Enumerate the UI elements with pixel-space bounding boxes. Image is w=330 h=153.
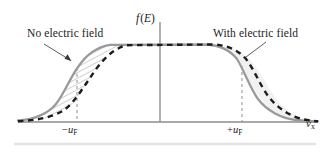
x-axis-label: vx <box>306 117 315 131</box>
tick-right-subscript: F <box>238 128 242 137</box>
y-axis-argument-symbol: E <box>144 12 151 24</box>
leader-arrow-no-field <box>65 54 72 61</box>
fermi-distribution-figure: No electric field With electric field f … <box>0 0 330 153</box>
tick-label-minus-uf: −uF <box>62 124 77 137</box>
annotation-with-electric-field: With electric field <box>213 27 298 39</box>
right-shaded-region <box>200 44 318 121</box>
x-axis-subscript: x <box>311 122 315 131</box>
y-axis-label: f (E) <box>136 12 155 24</box>
tick-label-plus-uf: +uF <box>227 124 242 137</box>
leader-line-with-field <box>246 42 266 57</box>
y-axis-paren-close: ) <box>151 12 155 24</box>
tick-left-subscript: F <box>73 128 77 137</box>
plot-canvas <box>0 0 330 153</box>
annotation-no-electric-field: No electric field <box>27 27 103 39</box>
